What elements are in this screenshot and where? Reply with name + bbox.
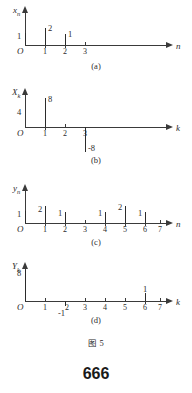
y-axis-arrow-d bbox=[22, 262, 28, 269]
stem-value-label: 1 bbox=[17, 210, 21, 219]
stem-bar bbox=[25, 33, 26, 45]
y-axis-b bbox=[25, 94, 26, 127]
y-axis-label-c: yn bbox=[13, 184, 20, 195]
x-axis-a bbox=[25, 45, 168, 46]
x-tick-label: 6 bbox=[138, 304, 152, 312]
stem-plot-d: Yk O k 1 2 3 4 5 6 7 8 bbox=[0, 260, 192, 312]
stem-bar bbox=[65, 212, 66, 223]
x-tick-label: 4 bbox=[98, 304, 112, 312]
stem-value-label: 2 bbox=[38, 205, 42, 214]
stem-value-label: 1 bbox=[143, 285, 147, 294]
stem-bar bbox=[145, 293, 146, 301]
x-tick-label: 5 bbox=[118, 226, 132, 234]
x-axis-label-b: k bbox=[176, 124, 180, 133]
stem-value-label: 1 bbox=[98, 209, 102, 218]
x-tick-label: 3 bbox=[78, 304, 92, 312]
stem-plot-b: Xk O k 1 2 3 4 8 -8 bbox=[0, 86, 192, 154]
stem-value-label: 1 bbox=[17, 32, 21, 41]
stem-plot-c: yn O n 1 2 3 4 5 6 7 1 2 bbox=[0, 182, 192, 234]
origin-label-b: O bbox=[17, 129, 24, 138]
stem-bar bbox=[25, 211, 26, 223]
figure-c: yn O n 1 2 3 4 5 6 7 1 2 bbox=[0, 182, 192, 250]
stem-bar bbox=[125, 206, 126, 223]
x-tick-label: 3 bbox=[78, 226, 92, 234]
x-tick-label: 1 bbox=[38, 304, 52, 312]
stem-bar bbox=[45, 28, 46, 45]
stem-bar bbox=[85, 127, 86, 152]
y-axis-label-b: Xk bbox=[12, 88, 20, 99]
x-axis-arrow-b bbox=[166, 124, 173, 130]
x-tick bbox=[105, 298, 106, 301]
page-number: 666 bbox=[0, 366, 192, 382]
subcaption-a: (a) bbox=[0, 62, 192, 71]
figure-b: Xk O k 1 2 3 4 8 -8 (b) bbox=[0, 86, 192, 168]
x-tick-label: 1 bbox=[38, 130, 52, 138]
x-axis-label-d: k bbox=[176, 298, 180, 307]
x-axis-d bbox=[25, 301, 168, 302]
subcaption-c: (c) bbox=[0, 238, 192, 247]
x-tick-label: 2 bbox=[58, 226, 72, 234]
x-tick-label: 4 bbox=[98, 226, 112, 234]
x-tick-label: 3 bbox=[78, 48, 92, 56]
stem-value-label: 1 bbox=[58, 209, 62, 218]
x-tick bbox=[65, 124, 66, 127]
x-tick-label: 1 bbox=[38, 226, 52, 234]
x-axis-label-a: n bbox=[176, 42, 181, 51]
x-axis-arrow-a bbox=[166, 42, 173, 48]
x-tick bbox=[160, 220, 161, 223]
x-tick-label: 1 bbox=[38, 48, 52, 56]
x-axis-b bbox=[25, 127, 168, 128]
origin-label-a: O bbox=[17, 47, 24, 56]
stem-bar bbox=[45, 98, 46, 127]
x-tick-label: 2 bbox=[58, 130, 72, 138]
stem-bar bbox=[25, 270, 26, 301]
stem-bar bbox=[105, 212, 106, 223]
x-tick bbox=[125, 298, 126, 301]
x-tick bbox=[45, 298, 46, 301]
figure-caption: 图 5 bbox=[0, 339, 192, 348]
stem-value-label: 4 bbox=[17, 108, 21, 117]
y-axis-arrow-b bbox=[22, 88, 28, 95]
figure-a: xn O n 1 2 3 1 2 1 (a) bbox=[0, 4, 192, 72]
x-tick bbox=[85, 220, 86, 223]
stem-bar bbox=[45, 206, 46, 223]
y-axis-label-a: xn bbox=[13, 6, 20, 17]
stem-value-label: 8 bbox=[48, 95, 52, 104]
x-tick-label: 2 bbox=[58, 48, 72, 56]
origin-label-d: O bbox=[17, 303, 24, 312]
x-axis-c bbox=[25, 223, 168, 224]
stem-value-label: 2 bbox=[118, 203, 122, 212]
subcaption-d: (d) bbox=[0, 316, 192, 325]
figure-page: xn O n 1 2 3 1 2 1 (a) bbox=[0, 0, 192, 393]
stem-bar bbox=[65, 34, 66, 45]
stem-bar bbox=[65, 301, 66, 306]
origin-label-c: O bbox=[17, 225, 24, 234]
x-axis-label-c: n bbox=[176, 220, 181, 229]
y-axis-arrow-c bbox=[22, 184, 28, 191]
x-axis-arrow-c bbox=[166, 220, 173, 226]
x-tick-label: 7 bbox=[153, 304, 167, 312]
x-axis-arrow-d bbox=[166, 298, 173, 304]
x-tick-label: 5 bbox=[118, 304, 132, 312]
figure-d: Yk O k 1 2 3 4 5 6 7 8 bbox=[0, 260, 192, 328]
stem-plot-a: xn O n 1 2 3 1 2 1 bbox=[0, 4, 192, 56]
stem-value-label: 1 bbox=[138, 209, 142, 218]
stem-value-label: 8 bbox=[17, 269, 21, 278]
x-tick-label: 6 bbox=[138, 226, 152, 234]
y-axis-arrow-a bbox=[22, 6, 28, 13]
x-tick bbox=[160, 298, 161, 301]
x-tick bbox=[85, 298, 86, 301]
subcaption-b: (b) bbox=[0, 156, 192, 165]
stem-bar bbox=[145, 212, 146, 223]
stem-value-label: 1 bbox=[68, 30, 72, 39]
stem-value-label: -8 bbox=[88, 144, 95, 153]
x-tick bbox=[85, 42, 86, 45]
x-tick-label: 7 bbox=[153, 226, 167, 234]
stem-value-label: 2 bbox=[48, 24, 52, 33]
